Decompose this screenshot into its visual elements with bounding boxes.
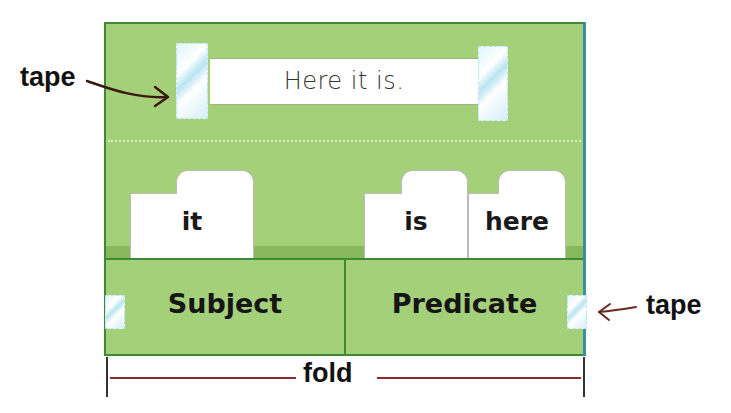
sentence-strip: Here it is. xyxy=(210,58,478,105)
fold-tick-left xyxy=(106,357,108,397)
tape-callout-left: tape xyxy=(20,62,76,93)
card-seam xyxy=(177,190,253,196)
fold-tick-right xyxy=(583,357,585,397)
card-seam xyxy=(499,190,565,196)
card-seam xyxy=(402,190,467,196)
predicate-pocket: Predicate xyxy=(346,258,583,354)
subject-pocket: Subject xyxy=(106,258,346,354)
word-card-label: it xyxy=(130,207,254,236)
arrow-left-icon xyxy=(596,300,646,330)
arrow-right-icon xyxy=(85,75,175,115)
fold-line-right xyxy=(377,377,581,379)
word-card-label: here xyxy=(468,207,566,236)
tape-icon xyxy=(567,295,587,329)
tape-icon xyxy=(478,46,508,121)
tape-icon xyxy=(176,43,208,119)
sentence-text: Here it is. xyxy=(210,67,478,95)
subject-label: Subject xyxy=(106,288,344,319)
dotted-fold-guide xyxy=(108,140,581,142)
tape-callout-right: tape xyxy=(646,290,702,321)
predicate-label: Predicate xyxy=(346,288,583,319)
tape-icon xyxy=(105,295,125,329)
fold-label: fold xyxy=(303,358,352,389)
fold-line-left xyxy=(110,377,296,379)
word-card-label: is xyxy=(364,207,468,236)
